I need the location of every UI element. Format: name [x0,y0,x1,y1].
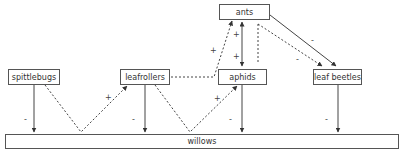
sign-leafrollers-willows: - [132,115,135,124]
sign-spittlebugs-willows: - [24,115,27,124]
sign-ants-aphids-down: + [233,52,240,61]
sign-ants-leafbeetles-solid: - [311,36,314,45]
node-willows: willows [5,134,399,149]
node-leaf-beetles: leaf beetles [313,69,362,85]
sign-leafrollers-ants: + [210,46,217,55]
node-aphids: aphids [218,69,267,85]
edge-spittlebugs-leafrollers [45,85,127,132]
edge-ants-leafbeetles-solid [270,15,336,66]
node-leafrollers: leafrollers [120,69,170,85]
sign-spittlebugs-leafrollers: + [105,93,112,102]
sign-leafrollers-aphids: + [214,94,221,103]
node-spittlebugs: spittlebugs [8,69,60,85]
food-web-diagram: - - - - + + + + + - - ants spittlebugs l… [0,0,405,155]
node-ants: ants [219,4,270,20]
sign-leafbeetles-willows: - [325,115,328,124]
sign-aphids-willows: - [229,115,232,124]
sign-ants-leafbeetles-dashed: - [296,55,299,64]
sign-ants-aphids-up: + [233,30,240,39]
edge-leafrollers-aphids [155,85,237,132]
